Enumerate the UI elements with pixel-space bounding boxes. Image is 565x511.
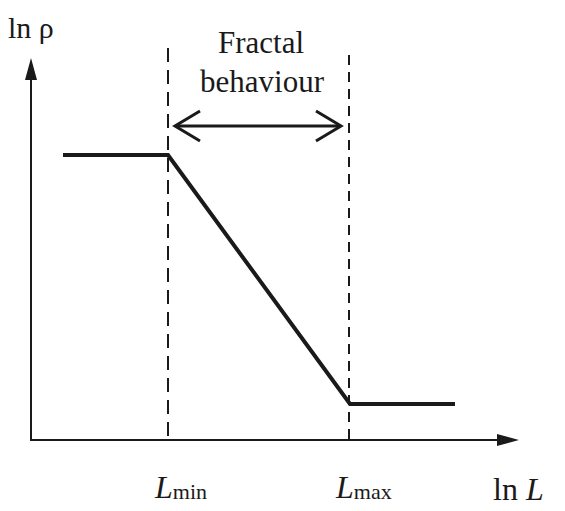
fractal-label-line2: behaviour [200, 64, 325, 99]
x-axis-arrow-icon [497, 434, 519, 446]
fractal-label-line1: Fractal [218, 25, 304, 60]
fractal-diagram: Fractal behaviour ln ρ ln L Lmin Lmax [0, 0, 565, 511]
lmax-label: Lmax [335, 469, 392, 505]
lmin-label: Lmin [154, 469, 207, 505]
x-axis-label: ln L [493, 471, 544, 507]
y-axis-arrow-icon [25, 58, 37, 80]
y-axis-label: ln ρ [8, 11, 54, 44]
data-curve [63, 155, 455, 404]
